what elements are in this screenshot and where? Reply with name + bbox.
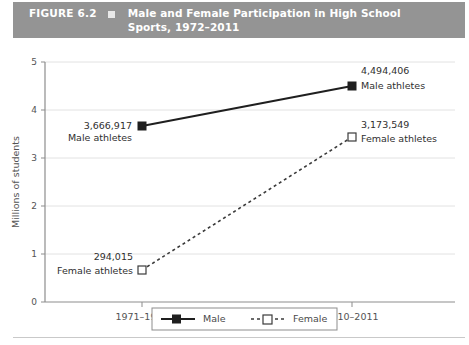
figure-number: FIGURE 6.2 bbox=[29, 7, 97, 20]
square-bullet-icon bbox=[108, 11, 115, 18]
label-female-2010-value: 3,173,549 bbox=[361, 119, 409, 130]
chart-legend: Male Female bbox=[152, 308, 337, 330]
y-axis-title: Millions of students bbox=[10, 136, 21, 228]
label-male-1971-value: 3,666,917 bbox=[84, 120, 132, 131]
y-tick-0: 0 bbox=[31, 297, 37, 307]
figure-container: FIGURE 6.2 Male and Female Participation… bbox=[0, 0, 469, 345]
line-chart: 5 4 3 2 1 0 Millions of students 1971–19… bbox=[0, 38, 469, 338]
label-female-1971-caption: Female athletes bbox=[57, 265, 133, 276]
label-male-2010: 4,494,406 Male athletes bbox=[361, 65, 425, 91]
label-female-2010-caption: Female athletes bbox=[361, 133, 437, 144]
series-female bbox=[138, 133, 356, 274]
y-tick-4: 4 bbox=[31, 105, 37, 115]
data-point-male-2010 bbox=[348, 82, 357, 91]
y-tick-3: 3 bbox=[31, 153, 37, 163]
figure-bottom-rule bbox=[13, 337, 465, 338]
label-female-1971-value: 294,015 bbox=[94, 251, 133, 262]
y-tick-5: 5 bbox=[31, 57, 37, 67]
y-axis-ticks: 5 4 3 2 1 0 bbox=[31, 57, 45, 307]
label-male-2010-value: 4,494,406 bbox=[361, 65, 409, 76]
label-male-1971-caption: Male athletes bbox=[68, 132, 132, 143]
series-male bbox=[138, 82, 357, 131]
label-male-1971: 3,666,917 Male athletes bbox=[68, 120, 132, 143]
data-point-female-2010 bbox=[348, 133, 356, 141]
legend-marker-male bbox=[172, 315, 181, 324]
figure-title: Male and Female Participation in High Sc… bbox=[128, 7, 428, 34]
label-male-2010-caption: Male athletes bbox=[361, 80, 425, 91]
label-female-2010: 3,173,549 Female athletes bbox=[361, 119, 437, 144]
legend-label-male: Male bbox=[203, 313, 226, 324]
y-tick-2: 2 bbox=[31, 201, 37, 211]
data-point-male-1971 bbox=[138, 122, 147, 131]
legend-label-female: Female bbox=[293, 313, 328, 324]
legend-marker-female bbox=[263, 315, 272, 324]
y-tick-1: 1 bbox=[31, 249, 37, 259]
data-point-female-1971 bbox=[138, 266, 146, 274]
figure-header: FIGURE 6.2 Male and Female Participation… bbox=[13, 2, 465, 38]
label-female-1971: 294,015 Female athletes bbox=[57, 251, 133, 276]
